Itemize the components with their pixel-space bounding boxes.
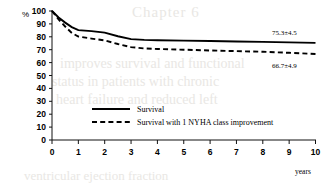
- x-axis-tick-label: 8: [260, 147, 265, 157]
- x-axis-tick-label: 10: [311, 147, 321, 157]
- legend-label-survival: Survival: [137, 105, 165, 114]
- legend-label-survival-nyha: Survival with 1 NYHA class improvement: [137, 118, 274, 127]
- x-axis-ticks: [52, 140, 316, 144]
- annotation-survival-value: 75.3±4.5: [272, 29, 297, 37]
- x-axis-tick-label: 4: [155, 147, 160, 157]
- x-axis-tick-label: 6: [208, 147, 213, 157]
- y-axis-tick-label: 100: [32, 6, 46, 16]
- x-axis-title: years: [295, 167, 311, 176]
- x-axis-tick-label: 2: [102, 147, 107, 157]
- y-axis-tick-label: 60: [37, 58, 47, 68]
- x-axis-tick-label: 3: [129, 147, 134, 157]
- y-axis-tick-labels: 0102030405060708090100: [32, 6, 46, 145]
- y-axis-title: %: [22, 10, 29, 19]
- y-axis-tick-label: 70: [37, 45, 47, 55]
- y-axis-tick-label: 10: [37, 122, 47, 132]
- x-axis-tick-labels: 012345678910: [50, 147, 321, 157]
- y-axis-tick-label: 20: [37, 109, 47, 119]
- x-axis-tick-label: 0: [50, 147, 55, 157]
- y-axis-tick-label: 80: [37, 32, 47, 42]
- x-axis-tick-label: 1: [76, 147, 81, 157]
- y-axis-tick-label: 90: [37, 19, 47, 29]
- y-axis-tick-label: 0: [41, 135, 46, 145]
- survival-chart: Chapter 6 improves survival and function…: [0, 0, 331, 184]
- y-axis-tick-label: 50: [37, 71, 47, 81]
- x-axis-tick-label: 9: [287, 147, 292, 157]
- x-axis-tick-label: 7: [234, 147, 239, 157]
- y-axis-tick-label: 40: [37, 83, 47, 93]
- chart-legend: Survival Survival with 1 NYHA class impr…: [92, 105, 274, 127]
- y-axis-tick-label: 30: [37, 96, 47, 106]
- annotation-nyha-value: 66.7±4.9: [272, 62, 297, 70]
- plot-area: % 0102030405060708090100 012345678910 75…: [0, 0, 331, 184]
- x-axis-tick-label: 5: [181, 147, 186, 157]
